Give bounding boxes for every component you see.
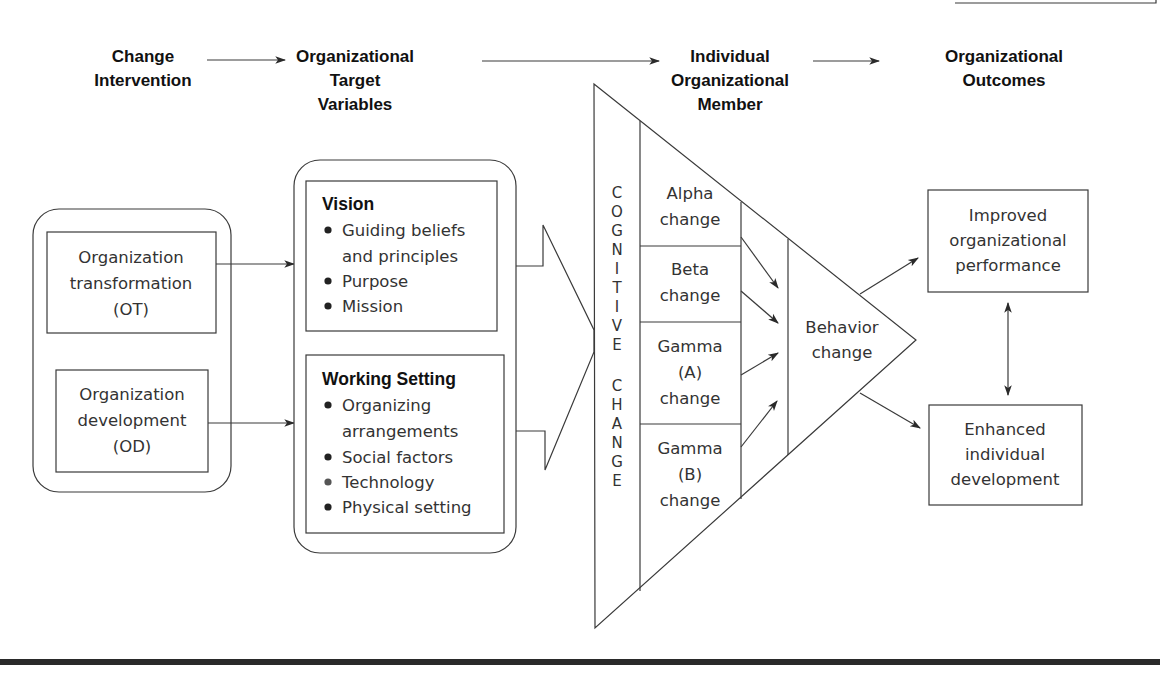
header-organizational-target-variables: Organizational Target Variables — [296, 47, 414, 114]
svg-text:I: I — [615, 260, 619, 278]
gammaB-to-behavior-arrow — [741, 401, 777, 447]
svg-text:V: V — [612, 317, 623, 335]
svg-text:Variables: Variables — [318, 95, 393, 114]
block-arrow-to-member — [516, 225, 594, 470]
svg-text:Gamma: Gamma — [657, 337, 722, 356]
alpha-to-behavior-arrow — [741, 237, 778, 288]
svg-text:Physical setting: Physical setting — [342, 498, 472, 517]
behavior-change-label: Behavior change — [805, 318, 878, 362]
cognitive-change-vertical-label: C O G N I T I V E C H A N G E — [611, 184, 623, 490]
working-setting-title: Working Setting — [322, 369, 456, 389]
svg-text:E: E — [612, 472, 621, 490]
svg-text:C: C — [612, 377, 622, 395]
svg-text:change: change — [660, 210, 721, 229]
beta-change-cell: Beta change — [660, 260, 721, 305]
gammaA-to-behavior-arrow — [741, 353, 778, 375]
top-right-frame-edge — [955, 0, 1156, 3]
alpha-change-cell: Alpha change — [660, 184, 721, 229]
svg-text:Outcomes: Outcomes — [962, 71, 1045, 90]
svg-text:change: change — [812, 343, 873, 362]
svg-text:Target: Target — [330, 71, 381, 90]
svg-text:Organizational: Organizational — [945, 47, 1063, 66]
svg-text:Mission: Mission — [342, 297, 403, 316]
svg-text:Behavior: Behavior — [805, 318, 878, 337]
od-label-line3: (OD) — [113, 437, 152, 456]
svg-text:change: change — [660, 389, 721, 408]
svg-text:N: N — [611, 434, 622, 452]
ot-label-line3: (OT) — [113, 300, 149, 319]
svg-text:C: C — [612, 184, 622, 202]
behavior-to-development-arrow — [860, 393, 920, 428]
vision-title: Vision — [322, 194, 374, 214]
svg-text:G: G — [611, 453, 623, 471]
ot-label-line1: Organization — [78, 248, 184, 267]
svg-text:Social factors: Social factors — [342, 448, 453, 467]
svg-text:Purpose: Purpose — [342, 272, 408, 291]
svg-text:Organizational: Organizational — [296, 47, 414, 66]
od-change-model-diagram: Change Intervention Organizational Targe… — [0, 0, 1172, 676]
svg-text:Improved: Improved — [969, 206, 1047, 225]
svg-text:individual: individual — [965, 445, 1045, 464]
svg-text:change: change — [660, 491, 721, 510]
svg-text:Change: Change — [112, 47, 174, 66]
header-individual-organizational-member: Individual Organizational Member — [671, 47, 789, 114]
svg-text:development: development — [951, 470, 1060, 489]
svg-text:Beta: Beta — [671, 260, 709, 279]
svg-text:Intervention: Intervention — [94, 71, 191, 90]
svg-text:Individual: Individual — [690, 47, 769, 66]
svg-text:Enhanced: Enhanced — [964, 420, 1046, 439]
svg-text:Member: Member — [697, 95, 763, 114]
svg-text:Gamma: Gamma — [657, 439, 722, 458]
svg-text:Organizational: Organizational — [671, 71, 789, 90]
svg-text:performance: performance — [955, 256, 1061, 275]
footer-rule — [0, 659, 1160, 665]
svg-text:E: E — [612, 336, 621, 354]
svg-text:organizational: organizational — [949, 231, 1066, 250]
svg-text:Alpha: Alpha — [667, 184, 714, 203]
behavior-to-performance-arrow — [860, 258, 918, 294]
svg-text:(B): (B) — [678, 465, 702, 484]
od-label-line2: development — [78, 411, 187, 430]
svg-text:and principles: and principles — [342, 247, 458, 266]
svg-text:H: H — [611, 396, 622, 414]
gamma-a-change-cell: Gamma (A) change — [657, 337, 722, 408]
svg-text:T: T — [611, 279, 622, 297]
header-change-intervention: Change Intervention — [94, 47, 191, 90]
gamma-b-change-cell: Gamma (B) change — [657, 439, 722, 510]
svg-text:Guiding beliefs: Guiding beliefs — [342, 221, 465, 240]
ot-label-line2: transformation — [70, 274, 193, 293]
svg-text:Organizing: Organizing — [342, 396, 431, 415]
header-organizational-outcomes: Organizational Outcomes — [945, 47, 1063, 90]
svg-text:I: I — [615, 298, 619, 316]
svg-text:A: A — [612, 415, 623, 433]
svg-text:arrangements: arrangements — [342, 422, 458, 441]
svg-text:O: O — [611, 203, 623, 221]
svg-text:G: G — [611, 222, 623, 240]
svg-text:(A): (A) — [678, 363, 702, 382]
od-label-line1: Organization — [79, 385, 185, 404]
svg-text:N: N — [611, 241, 622, 259]
svg-text:Technology: Technology — [341, 473, 435, 492]
beta-to-behavior-arrow — [741, 291, 778, 323]
svg-text:change: change — [660, 286, 721, 305]
